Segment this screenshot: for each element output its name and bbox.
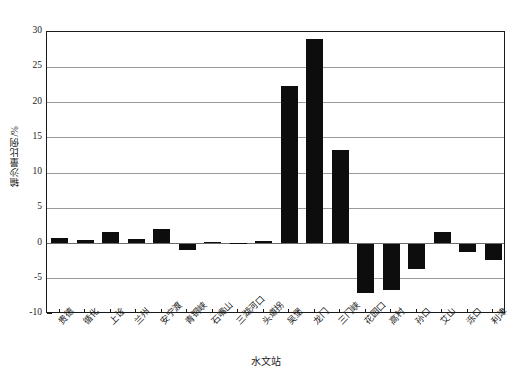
x-tick — [186, 309, 187, 313]
bar — [102, 232, 119, 244]
bar — [357, 244, 374, 293]
x-tick — [110, 309, 111, 313]
x-tick — [314, 309, 315, 313]
x-tick — [365, 309, 366, 313]
bar — [153, 229, 170, 244]
gridline-10 — [47, 173, 504, 174]
x-axis-title: 水文站 — [0, 353, 532, 368]
bar — [77, 240, 94, 244]
x-tick — [59, 309, 60, 313]
bar — [332, 150, 349, 244]
bar — [281, 86, 298, 244]
x-tick — [390, 309, 391, 313]
gridline-20 — [47, 102, 504, 103]
bar — [485, 244, 502, 260]
x-tick — [339, 309, 340, 313]
y-tick-label--10: -10 — [18, 308, 42, 318]
bar — [255, 241, 272, 243]
x-tick — [212, 309, 213, 313]
y-tick-label-5: 5 — [18, 202, 42, 212]
y-tick-label-15: 15 — [18, 132, 42, 142]
bar — [51, 238, 68, 244]
gridline-25 — [47, 67, 504, 68]
x-tick — [161, 309, 162, 313]
gridline-5 — [47, 208, 504, 209]
x-tick — [492, 309, 493, 313]
bar — [179, 244, 196, 250]
bar — [459, 244, 476, 252]
x-tick — [237, 309, 238, 313]
x-tick — [441, 309, 442, 313]
bar — [204, 242, 221, 243]
bar — [128, 239, 145, 243]
gridline-15 — [47, 137, 504, 138]
bar — [434, 232, 451, 243]
bar — [230, 243, 247, 244]
y-tick-label-25: 25 — [18, 61, 42, 71]
x-tick — [135, 309, 136, 313]
x-tick — [263, 309, 264, 313]
x-tick — [467, 309, 468, 313]
bar — [306, 39, 323, 243]
gridline--5 — [47, 278, 504, 279]
bar — [383, 244, 400, 291]
y-tick-label-0: 0 — [18, 238, 42, 248]
y-tick-label--5: -5 — [18, 273, 42, 283]
x-tick — [288, 309, 289, 313]
y-tick-label-10: 10 — [18, 167, 42, 177]
plot-area — [46, 31, 505, 313]
bar-chart-figure: 输沙量比例/% -10-5051015202530 贵德循化上诠兰州安宁渡青铜峡… — [0, 0, 532, 389]
y-tick-label-20: 20 — [18, 97, 42, 107]
bar — [408, 244, 425, 269]
x-tick — [416, 309, 417, 313]
y-tick-label-30: 30 — [18, 26, 42, 36]
x-tick — [84, 309, 85, 313]
